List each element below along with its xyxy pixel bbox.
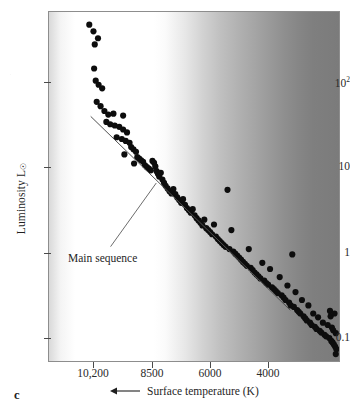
data-point: [305, 302, 311, 308]
y-tick-1: [44, 253, 51, 254]
plot-area: [48, 11, 340, 362]
data-point: [224, 187, 230, 193]
data-points-group: [86, 22, 339, 358]
data-point: [97, 103, 103, 109]
hr-diagram-figure: 102 10 1 0.1 Luminosity L☉ 10,200 8500 6…: [0, 0, 350, 416]
data-point: [99, 85, 105, 91]
data-point: [121, 151, 127, 157]
main-sequence-line: [91, 116, 291, 310]
data-point: [90, 28, 96, 34]
x-axis-arrow-icon: [110, 386, 140, 396]
data-point: [133, 149, 139, 155]
x-axis-title-group: Surface temperature (K): [110, 383, 340, 399]
y-axis-title-group: Luminosity L☉: [0, 120, 22, 290]
x-axis-title: Surface temperature (K): [147, 385, 259, 397]
data-point: [315, 314, 321, 320]
y-axis-arrow-icon: [6, 74, 15, 75]
y-tick-0.1: [44, 338, 51, 339]
data-point: [228, 227, 234, 233]
main-sequence-leader-line: [111, 183, 157, 247]
y-tick-label-100: 102: [310, 74, 350, 89]
data-point: [124, 129, 130, 135]
data-point: [190, 206, 196, 212]
data-point: [211, 221, 217, 227]
y-tick-label-1: 1: [310, 247, 350, 258]
data-point: [289, 251, 295, 257]
data-point: [91, 65, 97, 71]
y-tick-100: [44, 82, 51, 83]
x-tick-label-6000: 6000: [180, 367, 240, 379]
data-point: [284, 282, 290, 288]
y-tick-label-10: 10: [310, 161, 350, 172]
x-tick-label-10200: 10,200: [63, 367, 123, 379]
data-point: [105, 112, 111, 118]
data-point: [86, 22, 92, 28]
data-point: [292, 289, 298, 295]
data-point: [110, 111, 116, 117]
y-axis-title: Luminosity L☉: [15, 114, 28, 284]
y-tick-10: [44, 167, 51, 168]
x-tick-label-4000: 4000: [238, 367, 298, 379]
y-tick-label-0.1: 0.1: [310, 332, 350, 343]
data-point: [95, 35, 101, 41]
scatter-plot-canvas: [49, 12, 339, 361]
data-point: [299, 297, 305, 303]
data-point: [246, 246, 252, 252]
data-point: [158, 170, 164, 176]
data-point: [267, 266, 273, 272]
data-point: [180, 196, 186, 202]
data-point: [277, 274, 283, 280]
data-point: [259, 260, 265, 266]
data-point: [331, 310, 337, 316]
figure-letter-label: c: [14, 388, 20, 403]
data-point: [120, 112, 126, 118]
data-point: [131, 160, 137, 166]
data-point: [92, 41, 98, 47]
data-point: [333, 351, 339, 357]
x-tick-label-8500: 8500: [122, 367, 182, 379]
data-point: [310, 310, 316, 316]
main-sequence-annotation-label: Main sequence: [68, 252, 137, 264]
data-point: [201, 217, 207, 223]
